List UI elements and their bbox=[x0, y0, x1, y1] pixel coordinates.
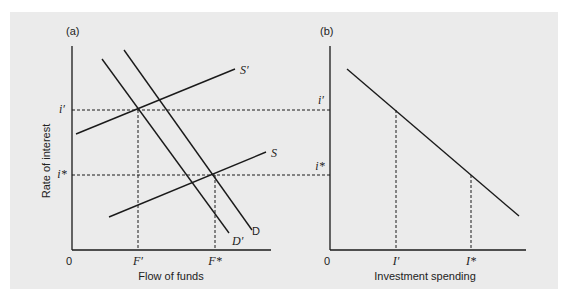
investment-demand-curve bbox=[347, 69, 519, 216]
tick-i-prime-a: i′ bbox=[59, 102, 65, 116]
tick-I-star: I* bbox=[465, 254, 476, 268]
curve-D-prime bbox=[102, 59, 229, 233]
tick-F-prime: F′ bbox=[132, 254, 143, 268]
panel-a-xlabel: Flow of funds bbox=[138, 270, 204, 282]
figure: (a) 0 Flow of funds Rate of interest S′ … bbox=[0, 0, 568, 299]
label-D: D bbox=[252, 225, 260, 237]
panel-b-origin: 0 bbox=[324, 255, 330, 267]
panel-b-tag: (b) bbox=[320, 25, 333, 37]
tick-i-prime-b: i′ bbox=[318, 93, 324, 107]
panel-a: (a) 0 Flow of funds Rate of interest S′ … bbox=[40, 25, 330, 282]
panel-b: (b) 0 Investment spending i′ i* I′ I* bbox=[315, 25, 526, 282]
curve-S-prime bbox=[76, 69, 235, 134]
label-D-prime: D′ bbox=[231, 234, 244, 248]
tick-i-star-b: i* bbox=[315, 159, 324, 173]
panel-a-origin: 0 bbox=[66, 255, 72, 267]
tick-I-prime: I′ bbox=[392, 254, 400, 268]
curve-S bbox=[109, 152, 266, 217]
panel-b-xlabel: Investment spending bbox=[374, 270, 476, 282]
label-S-prime: S′ bbox=[240, 63, 249, 77]
panel-a-tag: (a) bbox=[66, 25, 79, 37]
tick-F-star: F* bbox=[207, 254, 221, 268]
label-S: S bbox=[271, 146, 277, 160]
tick-i-star-a: i* bbox=[57, 167, 66, 181]
panel-a-ylabel: Rate of interest bbox=[40, 124, 52, 199]
